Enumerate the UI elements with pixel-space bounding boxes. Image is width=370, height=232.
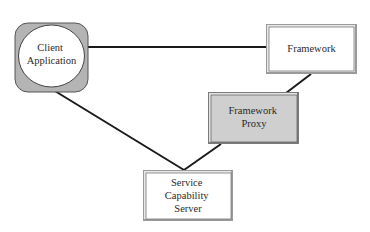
scs-label-line3: Server: [174, 203, 202, 214]
architecture-diagram: Client Application Framework Framework P…: [0, 0, 370, 232]
edge-framework-proxy: [286, 74, 311, 93]
proxy-label-line2: Proxy: [241, 118, 267, 129]
node-framework-proxy: Framework Proxy: [208, 92, 299, 144]
client-label-line1: Client: [37, 42, 63, 53]
scs-label-line2: Capability: [165, 190, 209, 201]
scs-label-line1: Service: [171, 177, 203, 188]
proxy-label-line1: Framework: [228, 105, 277, 116]
svg-text:Framework: Framework: [287, 43, 336, 54]
framework-label: Framework: [287, 43, 336, 54]
client-label-line2: Application: [27, 55, 77, 66]
node-framework: Framework: [266, 24, 357, 74]
edge-client-scs: [50, 88, 184, 170]
edge-proxy-scs: [184, 144, 221, 170]
node-client-application: Client Application: [15, 23, 88, 92]
node-service-capability-server: Service Capability Server: [143, 170, 233, 221]
